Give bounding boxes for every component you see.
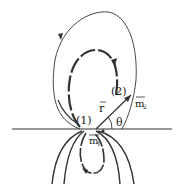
label-theta: θ xyxy=(116,116,123,129)
label-r: r xyxy=(99,102,105,115)
label-m1-sub: 1 xyxy=(97,140,101,147)
label-m2-sub: 2 xyxy=(143,103,147,110)
label-point-1: (1) xyxy=(76,114,92,127)
label-point-2: (2) xyxy=(111,85,127,98)
outer-field-loop xyxy=(53,12,136,129)
dipole-field-diagram: (2) r m 2 (1) θ m 1 xyxy=(0,0,177,186)
bottom-field-line-1 xyxy=(52,131,82,184)
theta-arc xyxy=(108,117,112,129)
